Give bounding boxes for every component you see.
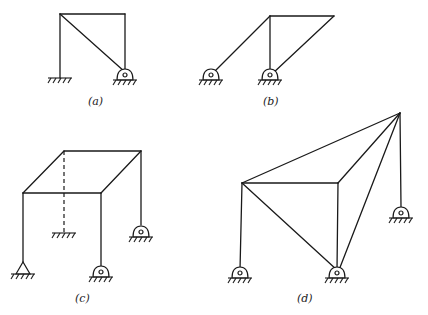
panel-label-b: (b) [263,95,279,108]
diagonal-brace [242,183,337,270]
right-side-beam [101,151,141,193]
fixed-support-icon [48,78,72,83]
frame-d [228,113,413,283]
frame-a [48,14,137,85]
fixed-support-icon [52,233,76,238]
left-column [240,183,242,270]
inclined-member [212,16,270,74]
member-box-to-apex [338,113,400,183]
panel-label-d: (d) [297,292,313,305]
pin-support-icon [389,207,413,223]
pin-support-icon [89,266,113,282]
center-column [337,183,338,270]
pin-support-icon [199,69,223,85]
diagonal-brace [60,14,125,72]
pin-support-icon [228,267,252,283]
frame-c [11,151,153,282]
pin-support-icon [325,267,349,283]
right-column [400,113,401,207]
panel-label-c: (c) [75,292,90,305]
left-side-beam [23,151,64,193]
hinge-support-icon [11,262,35,279]
diagonal-member [272,16,334,74]
pin-support-icon [258,69,282,85]
frame-b [199,16,334,85]
pin-support-icon [129,226,153,242]
structural-frames-diagram [0,0,428,315]
panel-label-a: (a) [88,95,103,108]
pin-support-icon [113,69,137,85]
